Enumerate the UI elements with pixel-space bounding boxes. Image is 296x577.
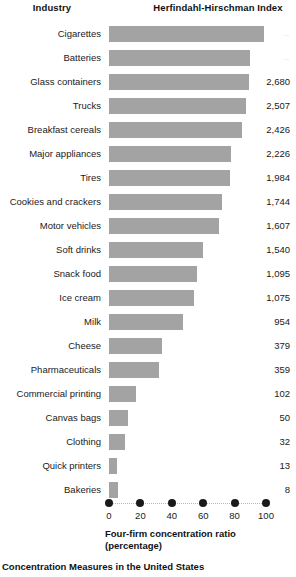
chart-row: Soft drinks1,540 [0,238,296,262]
row-hhi-value: 359 [228,358,290,382]
row-hhi-value: 954 [228,310,290,334]
row-hhi-value: 50 [228,406,290,430]
x-axis-tick-dot [262,499,270,507]
row-hhi-value: 32 [228,430,290,454]
x-axis-tick-label: 60 [188,510,218,521]
concentration-ratio-bar [109,362,159,378]
row-industry-label: Cheese [0,334,101,358]
row-industry-label: Trucks [0,94,101,118]
concentration-ratio-bar [109,386,136,402]
concentration-ratio-bar [109,194,222,210]
row-industry-label: Canvas bags [0,406,101,430]
row-industry-label: Pharmaceuticals [0,358,101,382]
row-hhi-value: 1,744 [228,190,290,214]
chart-row: Tires1,984 [0,166,296,190]
row-industry-label: Quick printers [0,454,101,478]
row-hhi-value: 13 [228,454,290,478]
x-axis-tick-dot [168,499,176,507]
concentration-ratio-bar [109,146,231,162]
chart-row: Batteries.. [0,46,296,70]
concentration-ratio-bar [109,290,194,306]
row-industry-label: Snack food [0,262,101,286]
row-industry-label: Motor vehicles [0,214,101,238]
row-industry-label: Major appliances [0,142,101,166]
concentration-measures-chart: Industry Herfindahl-Hirschman Index Ciga… [0,0,296,577]
row-hhi-value: .. [228,22,290,46]
chart-row: Snack food1,095 [0,262,296,286]
chart-row: Milk954 [0,310,296,334]
chart-row: Pharmaceuticals359 [0,358,296,382]
row-hhi-value: 2,426 [228,118,290,142]
x-axis-tick-label: 20 [125,510,155,521]
chart-row: Major appliances2,226 [0,142,296,166]
row-industry-label: Breakfast cereals [0,118,101,142]
chart-row: Cheese379 [0,334,296,358]
row-industry-label: Glass containers [0,70,101,94]
x-axis-tick-labels: 020406080100 [109,510,266,524]
chart-row: Breakfast cereals2,426 [0,118,296,142]
x-axis-title-line2: (percentage) [105,540,295,552]
x-axis-tick-label: 0 [94,510,124,521]
row-hhi-value: 102 [228,382,290,406]
x-axis-tick-dot [105,499,113,507]
x-axis-tick-dot [231,499,239,507]
row-industry-label: Clothing [0,430,101,454]
concentration-ratio-bar [109,98,246,114]
concentration-ratio-bar [109,242,203,258]
row-hhi-value: 1,607 [228,214,290,238]
row-industry-label: Cigarettes [0,22,101,46]
row-hhi-value: 1,540 [228,238,290,262]
row-hhi-value: 1,984 [228,166,290,190]
row-hhi-value: 1,095 [228,262,290,286]
row-hhi-value: 379 [228,334,290,358]
row-industry-label: Milk [0,310,101,334]
row-industry-label: Ice cream [0,286,101,310]
x-axis-tick-label: 40 [157,510,187,521]
chart-row: Glass containers2,680 [0,70,296,94]
concentration-ratio-bar [109,218,219,234]
chart-row: Motor vehicles1,607 [0,214,296,238]
x-axis-title-line1: Four-firm concentration ratio [105,528,295,540]
chart-row: Cookies and crackers1,744 [0,190,296,214]
x-axis-tick-dot [199,499,207,507]
figure-caption: Concentration Measures in the United Sta… [2,561,294,572]
column-header-industry: Industry [0,2,104,13]
concentration-ratio-bar [109,314,183,330]
chart-row: Ice cream1,075 [0,286,296,310]
x-axis-title: Four-firm concentration ratio (percentag… [105,528,295,552]
chart-row: Canvas bags50 [0,406,296,430]
chart-row: Clothing32 [0,430,296,454]
bar-rows-container: Cigarettes..Batteries..Glass containers2… [0,22,296,502]
x-axis-tick-label: 100 [251,510,281,521]
concentration-ratio-bar [109,410,128,426]
row-industry-label: Soft drinks [0,238,101,262]
row-hhi-value: 2,507 [228,94,290,118]
x-axis-tick-label: 80 [220,510,250,521]
row-industry-label: Bakeries [0,478,101,502]
column-header-herfindahl-hirschman-index: Herfindahl-Hirschman Index [140,2,296,13]
chart-row: Commercial printing102 [0,382,296,406]
x-axis-tick-dot [136,499,144,507]
x-axis-dotted-line [109,503,266,504]
concentration-ratio-bar [109,458,117,474]
concentration-ratio-bar [109,482,118,498]
chart-row: Trucks2,507 [0,94,296,118]
row-industry-label: Commercial printing [0,382,101,406]
row-hhi-value: .. [228,46,290,70]
chart-row: Cigarettes.. [0,22,296,46]
concentration-ratio-bar [109,122,242,138]
row-industry-label: Tires [0,166,101,190]
row-industry-label: Cookies and crackers [0,190,101,214]
concentration-ratio-bar [109,338,162,354]
row-hhi-value: 1,075 [228,286,290,310]
concentration-ratio-bar [109,170,230,186]
row-hhi-value: 2,226 [228,142,290,166]
concentration-ratio-bar [109,266,197,282]
chart-row: Quick printers13 [0,454,296,478]
concentration-ratio-bar [109,434,125,450]
row-hhi-value: 2,680 [228,70,290,94]
row-industry-label: Batteries [0,46,101,70]
